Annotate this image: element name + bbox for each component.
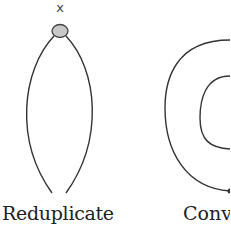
caption-conv: Conv xyxy=(183,202,230,224)
diagram-canvas xyxy=(0,0,230,230)
caption-reduplicate: Reduplicate xyxy=(2,202,114,224)
spiral-outer xyxy=(165,40,230,191)
node-x xyxy=(52,25,68,38)
right-strand xyxy=(66,36,92,193)
node-label: x xyxy=(53,0,67,15)
spiral-end-dot xyxy=(228,189,231,194)
spiral-inner xyxy=(200,76,230,149)
left-strand xyxy=(27,36,54,193)
